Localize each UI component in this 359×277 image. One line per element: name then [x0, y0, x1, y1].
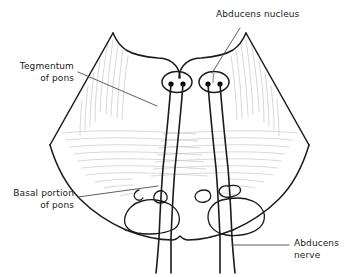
- pons-cross-section-figure: Abducens nucleus Tegmentum of pons Basal…: [0, 0, 359, 277]
- leader-tegmentum: [78, 72, 157, 106]
- brainstem-outline: [50, 33, 309, 240]
- abducens-nerve-fibers: [156, 84, 235, 273]
- label-abducens-nerve: Abducens nerve: [294, 238, 339, 261]
- label-abducens-nerve-line1: Abducens: [294, 238, 339, 250]
- label-abducens-nerve-line2: nerve: [294, 250, 339, 262]
- anatomy-drawing: [0, 0, 359, 277]
- leader-basal-portion: [78, 186, 158, 197]
- label-basal-portion-line1: Basal portion: [0, 188, 74, 200]
- abducens-nucleus-left: [162, 72, 192, 93]
- label-tegmentum-line2: of pons: [0, 73, 74, 85]
- label-abducens-nucleus: Abducens nucleus: [216, 9, 299, 21]
- label-basal-portion-line2: of pons: [0, 200, 74, 212]
- leader-lines: [78, 28, 289, 245]
- nucleus-internal-stroke: [213, 73, 214, 83]
- label-basal-portion-of-pons: Basal portion of pons: [0, 188, 74, 211]
- label-abducens-nucleus-line1: Abducens nucleus: [216, 9, 299, 21]
- label-tegmentum-of-pons: Tegmentum of pons: [0, 61, 74, 84]
- nucleus-oval-left: [162, 72, 192, 93]
- label-tegmentum-line1: Tegmentum: [0, 61, 74, 73]
- basal-pons-blobs: [125, 185, 265, 235]
